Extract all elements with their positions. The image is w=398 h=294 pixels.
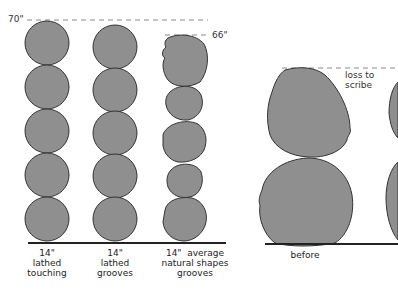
right-before-stack — [259, 68, 353, 246]
height-label-66: 66" — [212, 30, 228, 40]
height-label-70: 70" — [8, 14, 24, 24]
label-before: before — [285, 250, 325, 260]
annotation-loss-to-scribe: loss to scribe — [345, 70, 398, 90]
label-natural-grooves: 14" average natural shapes grooves — [155, 248, 235, 278]
column-natural-grooves — [162, 35, 207, 241]
label-lathed-grooves: 14" lathed grooves — [90, 248, 140, 278]
column-lathed-touching — [25, 21, 69, 241]
column-lathed-grooves — [93, 25, 137, 241]
label-lathed-touching: 14" lathed touching — [22, 248, 72, 278]
right-after-stack-partial — [386, 82, 398, 240]
